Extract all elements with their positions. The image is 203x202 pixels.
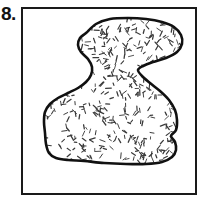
texture-dash — [75, 112, 76, 117]
texture-dash — [153, 36, 154, 40]
texture-dash — [124, 55, 125, 59]
texture-dash — [100, 108, 101, 112]
texture-dash — [125, 107, 126, 112]
texture-dash — [139, 108, 140, 112]
texture-dash — [72, 95, 74, 96]
texture-dash — [173, 30, 174, 34]
texture-dash — [62, 131, 67, 132]
texture-dash — [157, 150, 158, 153]
texture-dash — [66, 124, 67, 127]
texture-dash — [166, 124, 167, 129]
texture-dash — [117, 76, 118, 80]
texture-dash — [128, 28, 129, 31]
texture-dash — [150, 132, 154, 133]
texture-dash — [144, 139, 145, 143]
texture-dash — [101, 108, 104, 109]
texture-dash — [79, 115, 80, 119]
texture-dash — [121, 153, 122, 159]
texture-dash — [83, 144, 84, 147]
texture-dash — [167, 138, 168, 141]
texture-dash — [151, 152, 152, 156]
texture-dash — [75, 136, 76, 139]
texture-dash — [113, 83, 114, 85]
figure-container: 8. — [0, 0, 203, 202]
texture-dash — [61, 104, 66, 105]
texture-dash — [120, 115, 125, 116]
texture-dash — [89, 103, 90, 105]
texture-dash — [159, 160, 163, 161]
texture-dash — [124, 135, 125, 138]
texture-dash — [104, 42, 105, 45]
texture-dash — [108, 76, 113, 77]
texture-dash — [126, 27, 129, 28]
texture-dash — [84, 125, 85, 129]
figure-illustration — [0, 0, 203, 202]
texture-dash — [94, 47, 95, 52]
